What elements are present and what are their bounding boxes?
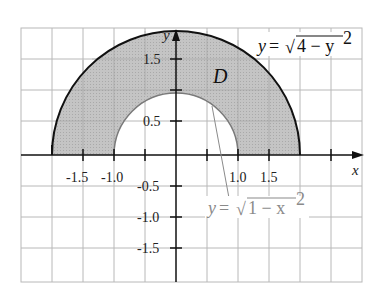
x-tick-label: 1.0 (229, 170, 247, 185)
x-tick-label: -1.5 (66, 170, 88, 185)
svg-text:4 − y: 4 − y (297, 36, 334, 56)
x-tick-label: -1.0 (101, 170, 123, 185)
y-tick-label: -1.0 (137, 210, 159, 225)
region-label-d: D (212, 65, 228, 87)
y-tick-label: 1.5 (143, 52, 161, 67)
diagram-canvas: y x -1.5 -1.0 1.0 1.5 1.5 0.5 -0.5 -1.0 … (0, 0, 372, 294)
svg-text:√: √ (236, 199, 246, 219)
svg-text:2: 2 (296, 189, 305, 209)
y-tick-label: -1.5 (137, 241, 159, 256)
y-tick-label: 0.5 (143, 114, 161, 129)
x-axis-label: x (351, 162, 359, 178)
svg-text:√: √ (285, 37, 295, 57)
y-tick-label: -0.5 (137, 179, 159, 194)
svg-text:2: 2 (343, 28, 352, 48)
outer-curve-equation: y= √ 4 − y 2 (255, 28, 359, 57)
svg-text:1 − x: 1 − x (248, 198, 285, 218)
x-tick-label: 1.5 (260, 170, 278, 185)
y-axis-label: y (161, 27, 170, 43)
